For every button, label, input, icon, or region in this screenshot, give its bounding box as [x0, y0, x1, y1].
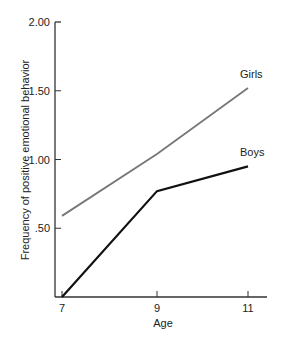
series-line-girls: [62, 88, 248, 216]
y-axis-title: Frequency of positive emotional behavior: [19, 59, 31, 260]
line-chart: .501.001.502.007911AgeFrequency of posit…: [0, 0, 290, 343]
axes: .501.001.502.007911AgeFrequency of posit…: [19, 16, 267, 329]
series-lines: [62, 88, 248, 297]
series-label-girls: Girls: [240, 68, 263, 80]
x-tick-label: 11: [242, 302, 253, 314]
y-tick-label: .50: [35, 222, 50, 234]
series-line-boys: [62, 166, 248, 297]
x-axis-title: Age: [153, 317, 173, 329]
y-tick-label: 1.00: [29, 154, 50, 166]
x-tick-label: 9: [154, 302, 160, 314]
labels: GirlsBoys: [240, 68, 265, 158]
series-label-boys: Boys: [240, 146, 265, 158]
x-tick-label: 7: [59, 302, 65, 314]
y-tick-label: 2.00: [29, 16, 50, 28]
y-tick-label: 1.50: [29, 85, 50, 97]
